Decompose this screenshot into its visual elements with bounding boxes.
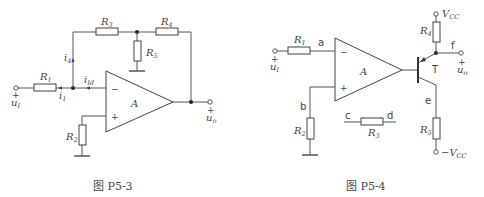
figure-caption-p5-3: 图 P5-3 bbox=[93, 177, 133, 193]
label-r1: R1 bbox=[39, 71, 52, 84]
label-neg-vcc: −VCC bbox=[441, 147, 467, 160]
output-terminal bbox=[208, 100, 212, 104]
neg-vcc-terminal bbox=[434, 150, 438, 154]
label-uo: uo bbox=[206, 112, 216, 125]
resistor-r4 bbox=[156, 28, 178, 35]
label-vcc: VCC bbox=[442, 8, 459, 21]
label-amp: A bbox=[130, 98, 138, 109]
input-terminal bbox=[273, 49, 277, 53]
label-a: a bbox=[318, 37, 324, 48]
label-plus: + bbox=[111, 112, 119, 122]
output-terminal bbox=[459, 51, 463, 55]
label-r4: R4 bbox=[160, 16, 173, 29]
junction-node bbox=[189, 100, 193, 104]
label-r5: R5 bbox=[419, 124, 432, 137]
label-r4: R4 bbox=[419, 25, 432, 38]
label-amp: A bbox=[359, 66, 367, 77]
label-d: d bbox=[387, 110, 393, 121]
figure-p5-3: R1 R3 R4 R5 R2 i4 iId i1 A − + + uI + uo bbox=[11, 16, 216, 156]
label-r2: R2 bbox=[65, 131, 78, 144]
label-transistor: T bbox=[431, 64, 439, 75]
resistor-r1 bbox=[34, 84, 56, 91]
label-i1: i1 bbox=[59, 90, 66, 103]
figure-p5-4: R1 a b c d e f R2 R3 R4 R5 A − + T VCC −… bbox=[270, 8, 467, 160]
label-c: c bbox=[345, 110, 351, 121]
label-r1: R1 bbox=[293, 34, 306, 47]
figure-caption-p5-4: 图 P5-4 bbox=[346, 177, 386, 193]
resistor-r4 bbox=[433, 22, 440, 42]
label-f: f bbox=[451, 40, 455, 51]
resistor-r2 bbox=[79, 125, 86, 145]
resistor-r1 bbox=[288, 47, 310, 54]
label-iid: iId bbox=[84, 74, 94, 87]
op-amp bbox=[106, 71, 173, 132]
resistor-r2 bbox=[307, 118, 314, 139]
circuit-diagrams: R1 R3 R4 R5 R2 i4 iId i1 A − + + uI + uo bbox=[0, 0, 484, 197]
label-i4: i4 bbox=[64, 52, 71, 65]
vcc-terminal bbox=[434, 12, 438, 16]
resistor-r3 bbox=[361, 118, 383, 125]
label-uo: uo bbox=[457, 64, 467, 77]
label-b: b bbox=[300, 101, 306, 112]
label-r3: R3 bbox=[367, 127, 380, 140]
resistor-r5 bbox=[134, 41, 141, 61]
resistor-r3 bbox=[96, 28, 118, 35]
resistor-r5 bbox=[433, 118, 440, 139]
label-e: e bbox=[425, 95, 431, 106]
label-plus: + bbox=[340, 83, 348, 93]
label-r3: R3 bbox=[100, 16, 113, 29]
label-minus: − bbox=[340, 47, 348, 57]
label-minus: − bbox=[111, 84, 119, 94]
transistor-emitter-arrow bbox=[420, 57, 426, 62]
label-r2: R2 bbox=[293, 125, 306, 138]
label-r5: R5 bbox=[145, 47, 158, 60]
